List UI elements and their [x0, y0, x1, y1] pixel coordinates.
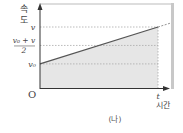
tick-label-v0: v₀: [28, 60, 37, 69]
x-axis-label: 시간: [156, 100, 171, 110]
velocity-line-extension: [158, 23, 170, 27]
x-axis-arrow-icon: [163, 86, 170, 91]
frame-top: [40, 3, 173, 5]
tick-label-average-denominator: 2: [21, 46, 27, 55]
velocity-time-graph: 속 도 v v₀ + v 2 v₀ O t 시간 (나): [0, 0, 183, 133]
tick-label-average-numerator: v₀ + v: [13, 36, 36, 45]
y-axis-label-2: 도: [20, 15, 28, 25]
tick-label-t: t: [156, 92, 160, 101]
y-axis-label-1: 속: [20, 4, 28, 14]
frame-right: [171, 3, 174, 89]
figure-caption: (나): [109, 115, 122, 124]
origin-label: O: [28, 89, 36, 100]
tick-label-v: v: [31, 23, 36, 32]
